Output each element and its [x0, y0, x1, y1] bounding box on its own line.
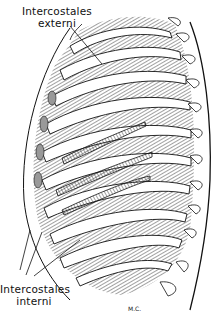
rib-cage-illustration	[0, 0, 222, 317]
label-top-line2: externi	[21, 17, 93, 29]
label-intercostales-externi: Intercostales externi	[21, 5, 93, 29]
artist-signature: M.C.	[128, 305, 141, 312]
label-intercostales-interni: Intercostales interni	[0, 283, 68, 307]
label-bottom-line2: interni	[0, 295, 68, 307]
label-top-line1: Intercostales	[21, 5, 93, 17]
label-bottom-line1: Intercostales	[0, 283, 68, 295]
